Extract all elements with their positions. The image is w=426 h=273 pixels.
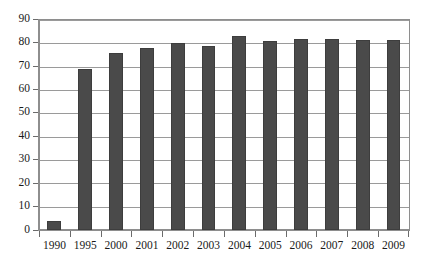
bar-2009[interactable] [387, 40, 401, 230]
bar-slot-2002 [162, 20, 193, 230]
x-tick-label-2007: 2007 [316, 239, 347, 252]
x-tick-label-2008: 2008 [347, 239, 378, 252]
y-tick-40 [33, 136, 38, 137]
bar-slot-2008 [347, 20, 378, 230]
x-tick-label-2002: 2002 [162, 239, 193, 252]
x-tick-2008 [347, 231, 348, 237]
y-tick-10 [33, 206, 38, 207]
x-tick-slot-2007 [316, 231, 347, 237]
y-tick-90 [33, 19, 38, 20]
y-tick-70 [33, 66, 38, 67]
bar-2008[interactable] [356, 40, 370, 230]
y-tick-label-0: 0 [4, 224, 30, 236]
bar-slot-2005 [255, 20, 286, 230]
x-tick-label-2009: 2009 [378, 239, 409, 252]
bar-slot-2001 [131, 20, 162, 230]
bar-slot-1990 [39, 20, 70, 230]
x-tick-1990 [39, 231, 40, 237]
x-tick-1995 [70, 231, 71, 237]
y-tick-label-10: 10 [4, 200, 30, 212]
x-tick-2006 [286, 231, 287, 237]
y-tick-label-40: 40 [4, 130, 30, 142]
y-tick-30 [33, 159, 38, 160]
bar-chart: 90 80 70 60 50 40 30 20 10 0 1990 1995 2… [0, 0, 426, 273]
bar-2006[interactable] [294, 39, 308, 230]
y-tick-label-20: 20 [4, 177, 30, 189]
x-tick-end [408, 231, 409, 237]
bar-slot-2006 [286, 20, 317, 230]
x-tick-label-2000: 2000 [101, 239, 132, 252]
bar-2002[interactable] [171, 43, 185, 230]
x-tick-slot-1995 [70, 231, 101, 237]
x-tick-slot-2008 [347, 231, 378, 237]
x-tick-label-1990: 1990 [39, 239, 70, 252]
y-tick-label-90: 90 [4, 13, 30, 25]
x-tick-2002 [162, 231, 163, 237]
x-tick-slot-2004 [224, 231, 255, 237]
x-tick-slot-2000 [101, 231, 132, 237]
x-tick-slot-1990 [39, 231, 70, 237]
x-tick-label-1995: 1995 [70, 239, 101, 252]
x-tick-slot-2005 [255, 231, 286, 237]
bar-2004[interactable] [232, 36, 246, 230]
bar-2005[interactable] [263, 41, 277, 230]
y-tick-label-60: 60 [4, 83, 30, 95]
x-tick-slot-2003 [193, 231, 224, 237]
bar-slot-2000 [101, 20, 132, 230]
y-tick-label-70: 70 [4, 60, 30, 72]
x-tick-2005 [255, 231, 256, 237]
y-tick-label-30: 30 [4, 153, 30, 165]
x-tick-2000 [101, 231, 102, 237]
x-ticks-container [39, 231, 409, 237]
y-tick-20 [33, 183, 38, 184]
bar-slot-2003 [193, 20, 224, 230]
bar-2007[interactable] [325, 39, 339, 230]
x-tick-2007 [316, 231, 317, 237]
bar-slot-2009 [378, 20, 409, 230]
bar-slot-1995 [70, 20, 101, 230]
bar-2000[interactable] [109, 53, 123, 230]
x-tick-2003 [193, 231, 194, 237]
x-tick-label-2004: 2004 [224, 239, 255, 252]
x-tick-2009 [378, 231, 379, 237]
bar-slot-2007 [316, 20, 347, 230]
y-tick-label-50: 50 [4, 106, 30, 118]
y-axis [38, 19, 40, 231]
bar-2003[interactable] [202, 46, 216, 230]
x-tick-2001 [131, 231, 132, 237]
y-tick-60 [33, 89, 38, 90]
bar-slot-2004 [224, 20, 255, 230]
y-tick-80 [33, 42, 38, 43]
x-tick-label-2005: 2005 [255, 239, 286, 252]
x-tick-label-2001: 2001 [131, 239, 162, 252]
x-tick-slot-2001 [131, 231, 162, 237]
x-tick-label-2003: 2003 [193, 239, 224, 252]
x-tick-slot-2006 [286, 231, 317, 237]
x-labels-container: 1990 1995 2000 2001 2002 2003 2004 2005 … [39, 239, 409, 252]
bar-1995[interactable] [78, 69, 92, 230]
x-tick-slot-2009 [378, 231, 409, 237]
y-tick-50 [33, 112, 38, 113]
x-tick-slot-2002 [162, 231, 193, 237]
bar-2001[interactable] [140, 48, 154, 230]
bars-container [39, 20, 409, 230]
bar-1990[interactable] [47, 221, 61, 230]
y-tick-label-80: 80 [4, 36, 30, 48]
x-tick-2004 [224, 231, 225, 237]
x-tick-label-2006: 2006 [286, 239, 317, 252]
